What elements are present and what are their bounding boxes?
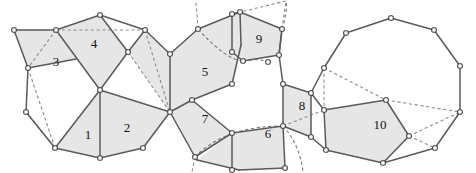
v-311-137 <box>309 135 314 140</box>
e-5-r1 <box>240 12 241 45</box>
v-240-12 <box>238 10 243 15</box>
v-283-84 <box>281 82 286 87</box>
v-279-55 <box>277 53 282 58</box>
face-10-label: 10 <box>374 117 387 132</box>
v-391-18 <box>389 16 394 21</box>
v-143-148 <box>141 146 146 151</box>
v-145-30 <box>143 28 148 33</box>
v-243-61 <box>241 59 246 64</box>
v-192-100 <box>190 98 195 103</box>
v-435-148 <box>433 146 438 151</box>
v-26-112 <box>24 110 29 115</box>
v-232-170 <box>230 168 235 173</box>
v-100-15 <box>98 13 103 18</box>
v-28-68 <box>26 66 31 71</box>
v-324-68 <box>322 66 327 71</box>
v-383-163 <box>381 161 386 166</box>
v-232-84 <box>230 82 235 87</box>
v-195-157 <box>193 155 198 160</box>
v-311-93 <box>309 91 314 96</box>
v-14-30 <box>12 28 17 33</box>
v-409-136 <box>407 134 412 139</box>
v-326-150 <box>324 148 329 153</box>
v-346-33 <box>344 31 349 36</box>
v-232-14 <box>230 12 235 17</box>
v-434-30 <box>432 28 437 33</box>
v-128-52 <box>126 50 131 55</box>
face-2-label: 2 <box>124 120 131 135</box>
v-268-62 <box>266 60 271 65</box>
v-198-29 <box>196 27 201 32</box>
v-232-133 <box>230 131 235 136</box>
v-100-158 <box>98 156 103 161</box>
v-232-52 <box>230 50 235 55</box>
v-460-112 <box>458 110 463 115</box>
face-5-label: 5 <box>202 64 209 79</box>
face-9-label: 9 <box>256 31 263 46</box>
v-282-29 <box>280 27 285 32</box>
v-460-66 <box>458 64 463 69</box>
face-6-label: 6 <box>265 126 272 141</box>
v-100-90 <box>98 88 103 93</box>
v-324-110 <box>322 108 327 113</box>
face-3-label: 3 <box>53 54 60 69</box>
face-4-label: 4 <box>91 36 98 51</box>
v-170-112 <box>168 110 173 115</box>
polyhedral-net-figure: 12345678910 <box>0 0 476 173</box>
face-1-label: 1 <box>85 127 92 142</box>
v-170-54 <box>168 52 173 57</box>
v-386-100 <box>384 98 389 103</box>
v-283-126 <box>281 124 286 129</box>
face-8-label: 8 <box>299 98 306 113</box>
face-7-label: 7 <box>202 111 209 126</box>
v-55-148 <box>53 146 58 151</box>
figure-container: 12345678910 <box>0 0 476 173</box>
v-285-168 <box>283 166 288 171</box>
v-56-30 <box>54 28 59 33</box>
